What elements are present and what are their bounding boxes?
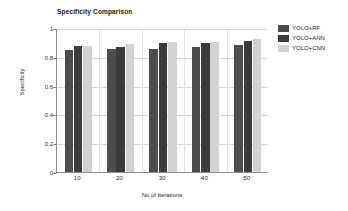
legend-item-label: YOLO+ANN [292,35,325,41]
y-axis-tick-mark [53,173,57,174]
legend-item[interactable]: YOLO+RF [278,24,348,32]
gridline-vertical [99,29,100,172]
legend-swatch-icon [278,25,289,32]
x-axis-title: No of Iterations [56,192,268,198]
y-axis-tick-label: 0.6 [45,84,53,90]
chart-legend: YOLO+RFYOLO+ANNYOLO+CNN [278,24,348,55]
bar [126,44,135,172]
y-axis-tick-label: 0.2 [45,141,53,147]
bar [74,46,83,172]
x-axis-tick-labels: 1020304050 [56,175,268,187]
legend-swatch-icon [278,35,289,42]
y-axis-title: Specificity [19,52,25,112]
legend-swatch-icon [278,45,289,52]
gridline-vertical [227,29,228,172]
x-axis-tick-label: 10 [74,175,81,181]
bar-group [192,29,219,172]
bar [253,39,262,172]
bar [83,46,92,172]
x-axis-tick-label: 30 [159,175,166,181]
gridline-vertical [184,29,185,172]
y-axis-tick-label: 0.4 [45,112,53,118]
chart-title: Specificity Comparison [57,8,132,15]
gridline-vertical [142,29,143,172]
bar [244,41,253,172]
bar [201,43,210,172]
x-axis-tick-label: 20 [116,175,123,181]
legend-item[interactable]: YOLO+CNN [278,44,348,52]
y-axis-tick-label: 0.8 [45,55,53,61]
legend-item-label: YOLO+CNN [292,45,325,51]
x-axis-tick-label: 40 [201,175,208,181]
bar-group [234,29,261,172]
bar-group [149,29,176,172]
legend-item[interactable]: YOLO+ANN [278,34,348,42]
bar [168,42,177,172]
legend-item-label: YOLO+RF [292,25,320,31]
bar-group [65,29,92,172]
plot-area [56,29,268,173]
bar [65,50,74,172]
bar [149,49,158,172]
bar [116,47,125,172]
bar [107,49,116,172]
y-axis-tick-labels: 00.20.40.60.81 [28,29,53,173]
bar-group [107,29,134,172]
chart-figure: Specificity Comparison Specificity 00.20… [0,0,348,211]
bar [159,43,168,172]
x-axis-tick-label: 50 [243,175,250,181]
bar [234,45,243,172]
bar [210,42,219,172]
bar [192,47,201,172]
